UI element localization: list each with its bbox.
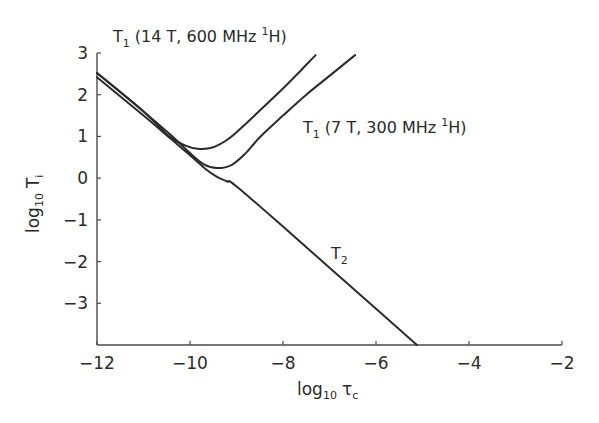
label-t2: T2 xyxy=(330,244,348,267)
y-tick-label: −3 xyxy=(63,293,88,313)
x-tick-label: −6 xyxy=(363,353,388,373)
y-axis-label: log10Ti xyxy=(23,175,46,233)
y-tick-label: 2 xyxy=(77,85,88,105)
axis-ticks: −12−10−8−6−4−2−3−2−10123 xyxy=(63,43,575,373)
label-t1-600mhz: T1 (14 T, 600 MHz 1H) xyxy=(112,25,287,50)
y-tick-label: 1 xyxy=(77,126,88,146)
series-t1-300mhz xyxy=(97,55,355,168)
series-t1-600mhz xyxy=(97,55,316,149)
plot-series xyxy=(97,55,417,345)
x-axis-label: log10τc xyxy=(297,379,358,402)
y-tick-label: 0 xyxy=(77,168,88,188)
axes xyxy=(97,53,562,345)
x-tick-label: −4 xyxy=(456,353,481,373)
y-tick-label: −1 xyxy=(63,210,88,230)
x-tick-label: −12 xyxy=(79,353,115,373)
label-t1-300mhz: T1 (7 T, 300 MHz 1H) xyxy=(302,116,467,141)
x-tick-label: −10 xyxy=(172,353,208,373)
y-tick-label: −2 xyxy=(63,252,88,272)
relaxation-time-chart: −12−10−8−6−4−2−3−2−10123 T1 (14 T, 600 M… xyxy=(0,0,599,423)
y-tick-label: 3 xyxy=(77,43,88,63)
x-tick-label: −2 xyxy=(549,353,574,373)
x-tick-label: −8 xyxy=(270,353,295,373)
